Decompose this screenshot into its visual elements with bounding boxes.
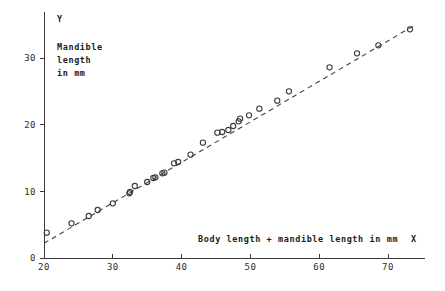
x-tick-label-40: 40 <box>176 262 188 272</box>
x-axis-symbol: X <box>411 234 416 244</box>
data-point-marker <box>110 201 115 206</box>
data-point-marker <box>200 140 205 145</box>
scatter-plot-figure: 0102030203040506070YMandiblelengthin mmB… <box>0 0 445 291</box>
y-axis-symbol: Y <box>57 14 63 24</box>
data-point-marker <box>286 89 291 94</box>
data-point-marker <box>275 98 280 103</box>
data-point-marker <box>188 152 193 157</box>
x-tick-label-30: 30 <box>107 262 119 272</box>
x-tick-label-60: 60 <box>313 262 325 272</box>
y-axis-title-line-1: Mandible <box>57 42 103 52</box>
y-axis-title-line-3: in mm <box>57 68 86 78</box>
x-axis-title: Body length + mandible length in mm <box>198 234 398 244</box>
chart-canvas: 0102030203040506070YMandiblelengthin mmB… <box>0 0 445 291</box>
y-tick-label-0: 0 <box>30 253 36 263</box>
data-point-marker <box>246 113 251 118</box>
data-point-marker <box>95 207 100 212</box>
x-tick-label-70: 70 <box>382 262 394 272</box>
y-tick-label-10: 10 <box>24 187 36 197</box>
data-point-marker <box>257 106 262 111</box>
data-point-marker <box>354 51 359 56</box>
data-point-marker <box>69 221 74 226</box>
data-point-marker <box>327 65 332 70</box>
data-point-marker <box>86 213 91 218</box>
data-point-marker <box>132 183 137 188</box>
data-point-marker <box>231 123 236 128</box>
data-point-marker <box>44 230 49 235</box>
data-points-group <box>44 27 412 236</box>
y-axis-title-line-2: length <box>57 55 91 65</box>
axis-labels-group: 0102030203040506070YMandiblelengthin mmB… <box>24 14 416 272</box>
y-tick-label-30: 30 <box>24 53 36 63</box>
y-tick-label-20: 20 <box>24 120 36 130</box>
x-tick-label-20: 20 <box>38 262 50 272</box>
x-tick-label-50: 50 <box>244 262 256 272</box>
data-point-marker <box>226 127 231 132</box>
